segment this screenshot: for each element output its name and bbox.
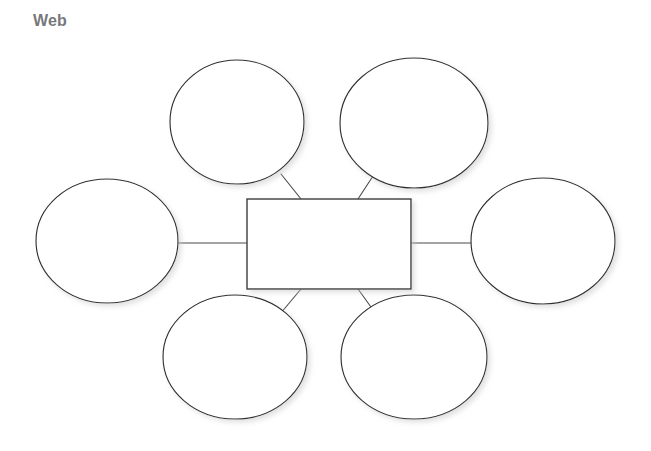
detail-bubble-left-outline[interactable]: [36, 179, 178, 303]
detail-bubble-right[interactable]: [471, 178, 615, 304]
detail-bubble-top-left[interactable]: [170, 60, 304, 184]
detail-bubble-top-right[interactable]: [340, 58, 488, 188]
detail-bubble-bottom-right[interactable]: [341, 295, 487, 419]
detail-bubble-top-right-outline[interactable]: [340, 58, 488, 188]
connector-center-to-top-left: [281, 174, 301, 199]
detail-bubble-bottom-left-outline[interactable]: [163, 295, 307, 419]
worksheet-page: Web: [0, 0, 651, 451]
detail-bubble-bottom-right-outline[interactable]: [341, 295, 487, 419]
detail-bubble-left[interactable]: [36, 179, 178, 303]
detail-bubble-top-left-outline[interactable]: [170, 60, 304, 184]
detail-bubble-bottom-left[interactable]: [163, 295, 307, 419]
center-topic-box[interactable]: [247, 199, 411, 289]
web-organizer-diagram: [0, 0, 651, 451]
center-topic-box-outline[interactable]: [247, 199, 411, 289]
detail-bubble-right-outline[interactable]: [471, 178, 615, 304]
